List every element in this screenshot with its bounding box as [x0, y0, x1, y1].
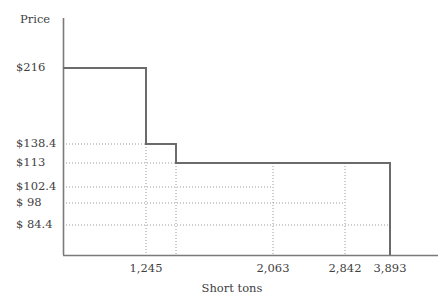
y-tick-label-113: $113: [16, 157, 45, 169]
price-step-line: [63, 68, 390, 255]
chart-figure: Price $216 $138.4 $113 $102.4 $ 98 $ 84.…: [0, 0, 448, 306]
x-tick-label-2063: 2,063: [243, 263, 303, 275]
y-tick-label-138-4: $138.4: [16, 138, 56, 150]
y-tick-label-84-4: $ 84.4: [16, 219, 53, 231]
y-axis-title: Price: [20, 14, 50, 26]
y-tick-label-98: $ 98: [16, 197, 42, 209]
y-tick-label-216: $216: [16, 62, 45, 74]
x-tick-label-1245: 1,245: [116, 263, 176, 275]
y-tick-label-102-4: $102.4: [16, 181, 56, 193]
x-tick-label-3893: 3,893: [360, 263, 420, 275]
x-axis-title: Short tons: [182, 283, 282, 295]
horizontal-gridlines: [63, 144, 390, 225]
